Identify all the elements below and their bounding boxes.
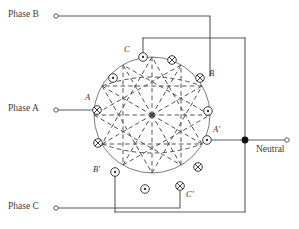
- phase-b-terminal-dot[interactable]: [54, 14, 58, 18]
- slot-node-3[interactable]: [196, 74, 205, 83]
- coil-chord-10: [123, 65, 210, 115]
- slot-dot-icon: [206, 139, 208, 141]
- wiring-group: [58, 16, 286, 212]
- coil-chord-12: [123, 115, 210, 165]
- coil-chord-3: [152, 57, 202, 144]
- stator-center-mark: [149, 112, 155, 118]
- phase-c-terminal-dot[interactable]: [54, 206, 58, 210]
- slot-dot-icon: [207, 110, 209, 112]
- coil-chord-9: [152, 86, 202, 173]
- slot-dot-icon: [142, 56, 144, 58]
- neutral-junction-dot: [242, 137, 249, 144]
- coil-chord-8: [102, 86, 152, 173]
- slot-node-5[interactable]: [203, 136, 212, 145]
- phase-b-label: Phase B: [8, 10, 39, 20]
- coil-label-c-bottom: C': [186, 190, 194, 199]
- phase-a-terminal-dot[interactable]: [54, 108, 58, 112]
- slot-node-7[interactable]: [176, 182, 185, 191]
- phase-a-label: Phase A: [8, 104, 39, 114]
- coil-label-c-top: C: [124, 45, 130, 54]
- phase-c-label: Phase C: [8, 202, 39, 212]
- neutral-label: Neutral: [256, 145, 285, 155]
- slot-dot-icon: [144, 188, 146, 190]
- coil-label-a-prime: A': [213, 125, 220, 134]
- slot-dot-icon: [114, 171, 116, 173]
- slot-node-6[interactable]: [194, 163, 203, 172]
- slot-node-10[interactable]: [94, 139, 103, 148]
- slot-dot-icon: [112, 77, 114, 79]
- coil-label-b-right: B: [209, 69, 214, 78]
- terminal-dots-group: [54, 14, 289, 210]
- neutral-terminal-dot[interactable]: [285, 138, 289, 142]
- coil-label-b-prime: B': [93, 165, 100, 174]
- coil-chord-1: [102, 57, 152, 144]
- slot-node-12[interactable]: [109, 74, 118, 83]
- slot-node-2[interactable]: [168, 56, 177, 65]
- phase-c-lead-wire: [58, 186, 180, 208]
- coil-chord-4: [94, 65, 181, 115]
- slot-node-9[interactable]: [111, 168, 120, 177]
- winding-diagram-root: Phase B Phase A Phase C Neutral C B A A'…: [0, 0, 299, 229]
- winding-diagram-svg: [0, 0, 299, 229]
- coil-chord-5: [94, 115, 181, 165]
- slot-node-4[interactable]: [204, 107, 213, 116]
- slot-node-8[interactable]: [141, 185, 150, 194]
- coil-label-a-left: A: [85, 93, 90, 102]
- slot-node-11[interactable]: [93, 106, 102, 115]
- phase-b-lead-wire: [58, 16, 210, 76]
- slot-node-1[interactable]: [139, 53, 148, 62]
